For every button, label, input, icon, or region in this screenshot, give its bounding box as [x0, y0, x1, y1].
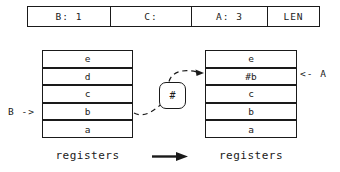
register-diagram: B: 1 C: A: 3 LEN B -> e d c b a # e #b c…	[0, 0, 340, 172]
register-row: a	[205, 120, 297, 138]
register-row: d	[42, 68, 133, 86]
register-row: #b	[205, 68, 297, 86]
header-cell-a: A: 3	[191, 7, 267, 26]
pointer-label-b: B ->	[8, 106, 35, 117]
register-row: c	[42, 85, 133, 103]
caption-registers-after: registers	[205, 149, 297, 162]
before-registers-stack: e d c b a	[42, 50, 133, 138]
dashed-flow-out	[169, 71, 197, 82]
caption-registers-before: registers	[42, 149, 133, 162]
register-row: b	[42, 103, 133, 121]
register-row: c	[205, 85, 297, 103]
pointer-label-a: <- A	[300, 68, 327, 79]
dashed-flow-arrowhead	[196, 70, 205, 77]
register-row: a	[42, 120, 133, 138]
header-table: B: 1 C: A: 3 LEN	[27, 6, 320, 27]
operator-symbol: #	[169, 90, 175, 101]
dashed-flow-in	[134, 105, 161, 115]
register-row: e	[205, 50, 297, 68]
header-cell-b: B: 1	[28, 7, 110, 26]
header-cell-c: C:	[110, 7, 191, 26]
after-registers-stack: e #b c b a	[205, 50, 297, 138]
register-row: b	[205, 103, 297, 121]
operator-box: #	[159, 82, 186, 109]
register-row: e	[42, 50, 133, 68]
header-cell-len: LEN	[267, 7, 319, 26]
transform-arrow-head	[176, 152, 188, 161]
